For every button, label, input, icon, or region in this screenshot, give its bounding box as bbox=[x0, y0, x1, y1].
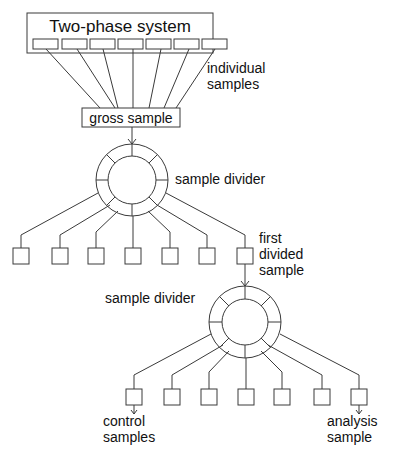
two-phase-system-box: Two-phase system bbox=[27, 13, 227, 53]
individual-sample-lines bbox=[46, 49, 215, 108]
first-divided-sample-box bbox=[237, 248, 253, 264]
two-phase-system-title: Two-phase system bbox=[49, 17, 191, 36]
analysis-sample-label-2: sample bbox=[327, 429, 372, 445]
gross-sample-label: gross sample bbox=[89, 110, 172, 126]
divider-1-output-lines bbox=[21, 193, 245, 248]
control-sample-box bbox=[126, 389, 142, 405]
control-samples-label-2: samples bbox=[103, 429, 155, 445]
divider-1-label: sample divider bbox=[175, 171, 266, 187]
analysis-sample-label-1: analysis bbox=[327, 413, 378, 429]
divided-sample-boxes bbox=[13, 248, 253, 264]
first-divided-label-1: first bbox=[259, 230, 282, 246]
control-samples-label-1: control bbox=[103, 413, 145, 429]
divider-2-label: sample divider bbox=[105, 290, 196, 306]
gross-sample-box: gross sample bbox=[82, 108, 180, 127]
final-sample-boxes bbox=[126, 389, 367, 405]
divider-2-output-lines bbox=[134, 334, 359, 389]
individual-samples-label-1: individual bbox=[207, 60, 265, 76]
sampling-diagram: Two-phase system individual samples gros… bbox=[0, 0, 396, 457]
individual-samples-label-2: samples bbox=[207, 76, 259, 92]
first-divided-label-3: sample bbox=[259, 262, 304, 278]
first-divided-label-2: divided bbox=[259, 246, 303, 262]
analysis-sample-box bbox=[351, 389, 367, 405]
